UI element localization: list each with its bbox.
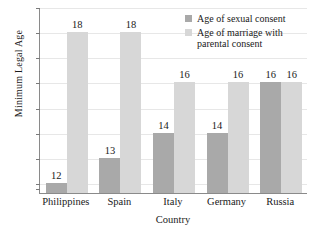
y-axis-tick [36, 134, 40, 135]
legend-item-label-line-2: parental consent [197, 38, 262, 49]
bar [67, 32, 88, 193]
legend-item-label: Age of marriage with parental consent [197, 27, 283, 49]
bar [46, 183, 67, 193]
gridline [40, 8, 307, 9]
legend-item-sexual-consent: Age of sexual consent [185, 13, 313, 24]
x-axis-tick-label: Russia [243, 196, 316, 207]
legend-swatch-icon [185, 29, 192, 36]
x-axis-title: Country [39, 214, 307, 225]
bar [281, 82, 302, 193]
bar [207, 133, 228, 193]
bar [228, 82, 249, 193]
legend: Age of sexual consent Age of marriage wi… [185, 13, 313, 52]
legend-item-label-line-1: Age of marriage with [197, 27, 283, 38]
bar [153, 133, 174, 193]
y-axis-tick [36, 184, 40, 185]
bar-chart: Minimum Legal Age 1213141516171819 12181… [0, 0, 316, 235]
y-axis-tick [36, 8, 40, 9]
y-axis-tick [36, 33, 40, 34]
legend-swatch-icon [185, 15, 192, 22]
bar [99, 158, 120, 193]
bar-value-label: 16 [222, 70, 255, 81]
bar [120, 32, 141, 193]
legend-item-marriage-parental-consent: Age of marriage with parental consent [185, 27, 313, 49]
bar-value-label: 16 [275, 70, 308, 81]
y-axis-minor-tick [36, 189, 40, 190]
y-axis-tick [36, 109, 40, 110]
y-axis-tick [36, 83, 40, 84]
bar [174, 82, 195, 193]
legend-item-label: Age of sexual consent [197, 13, 286, 24]
bar-value-label: 18 [114, 20, 147, 31]
bar [260, 82, 281, 193]
bar-value-label: 16 [168, 70, 201, 81]
y-axis-tick [36, 58, 40, 59]
y-axis-title: Minimum Legal Age [13, 4, 24, 144]
bar-value-label: 18 [61, 20, 94, 31]
y-axis-tick [36, 159, 40, 160]
